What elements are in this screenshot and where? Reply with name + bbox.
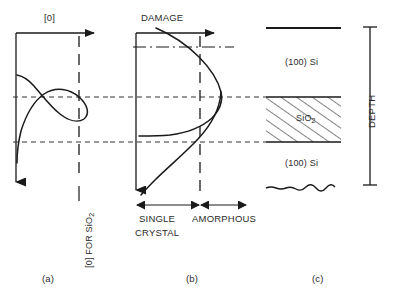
- figure-root: [0] [0] FOR SiO2 DAMAGE SINGLE CRYSTAL A…: [0, 0, 396, 301]
- layer-label-buried-oxide-subscript: 2: [312, 117, 316, 124]
- oxygen-concentration-curve: [17, 75, 87, 163]
- panel-b-axis-top-label: DAMAGE: [141, 12, 183, 23]
- dimension-label-amorphous: AMORPHOUS: [192, 213, 256, 224]
- panel-a-axis-vertical-label-subscript: 2: [88, 213, 95, 217]
- layer-label-top-silicon: (100) Si: [285, 57, 318, 67]
- panel-a-axis-vertical-label-text: [0] FOR SiO: [84, 217, 94, 268]
- dimension-label-single-crystal-line2: CRYSTAL: [135, 227, 179, 238]
- layer-label-substrate-silicon: (100) Si: [285, 158, 318, 168]
- damage-curve-lower-branch: [141, 92, 221, 195]
- wafer-back-surface-line: [266, 185, 335, 191]
- dimension-label-single-crystal-line1: SINGLE: [139, 213, 175, 224]
- panel-a-axis-top-label: [0]: [44, 12, 55, 23]
- panel-a-axis-vertical-label: [0] FOR SiO2: [84, 213, 95, 268]
- panel-caption-b: (b): [186, 273, 198, 284]
- panel-b-group: [110, 28, 266, 205]
- layer-label-buried-oxide: SiO2: [296, 113, 316, 124]
- panel-caption-a: (a): [42, 273, 54, 284]
- panel-c-group: [266, 27, 377, 191]
- panel-caption-c: (c): [312, 273, 324, 284]
- depth-scale-bar-label: DEPTH: [366, 95, 377, 128]
- panel-a-group: [13, 33, 108, 201]
- damage-curve: [139, 28, 222, 136]
- figure-canvas: [0, 0, 396, 301]
- layer-label-buried-oxide-text: SiO: [296, 113, 312, 123]
